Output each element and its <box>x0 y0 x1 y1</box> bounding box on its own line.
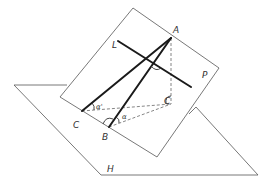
label-h: H <box>107 164 114 174</box>
label-p: P <box>202 70 208 80</box>
geometry-diagram: A L P C B C H α' α <box>0 0 273 185</box>
plane-h-right-edge <box>189 107 258 175</box>
label-c-foot: C <box>164 96 171 106</box>
label-b: B <box>102 132 108 142</box>
label-c: C <box>73 120 80 130</box>
label-l: L <box>112 40 117 50</box>
label-alpha-prime: α' <box>96 103 103 111</box>
label-a: A <box>172 25 179 35</box>
label-alpha: α <box>122 113 127 121</box>
